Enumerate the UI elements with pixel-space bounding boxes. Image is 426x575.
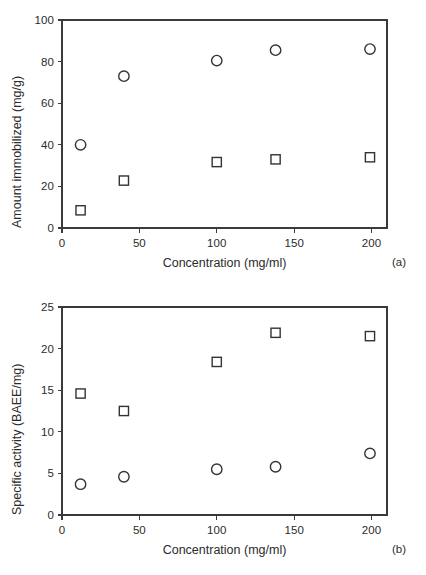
x-tick-label: 200 bbox=[362, 237, 382, 249]
data-point-circle bbox=[75, 479, 85, 489]
x-tick-label: 100 bbox=[207, 524, 227, 536]
data-point-square bbox=[271, 328, 280, 337]
data-point-circle bbox=[270, 462, 280, 472]
x-tick-label: 150 bbox=[284, 524, 304, 536]
x-tick-label: 50 bbox=[133, 237, 146, 249]
x-tick-label: 200 bbox=[362, 524, 382, 536]
data-point-square bbox=[119, 176, 128, 185]
y-axis-title: Specific activity (BAEE/mg) bbox=[10, 364, 24, 515]
x-tick-label: 100 bbox=[207, 237, 227, 249]
x-axis-title: Concentration (mg/ml) bbox=[163, 543, 287, 557]
data-point-circle bbox=[119, 472, 129, 482]
data-point-circle bbox=[270, 45, 280, 55]
x-tick-label: 150 bbox=[284, 237, 304, 249]
data-point-square bbox=[365, 153, 374, 162]
data-point-square bbox=[271, 155, 280, 164]
data-point-circle bbox=[212, 55, 222, 65]
y-tick-label: 20 bbox=[16, 343, 54, 355]
y-tick-label: 80 bbox=[16, 56, 54, 68]
data-point-circle bbox=[212, 464, 222, 474]
data-point-square bbox=[212, 357, 221, 366]
x-axis-title: Concentration (mg/ml) bbox=[163, 256, 287, 270]
data-point-square bbox=[76, 206, 85, 215]
y-axis-title: Amount immobilized (mg/g) bbox=[10, 76, 24, 228]
x-tick-label: 50 bbox=[133, 524, 146, 536]
x-tick-label: 0 bbox=[59, 524, 66, 536]
data-point-square bbox=[212, 157, 221, 166]
data-point-square bbox=[119, 406, 128, 415]
chart-panel-b: 0510152025050100150200Concentration (mg/… bbox=[0, 287, 426, 575]
data-point-circle bbox=[75, 140, 85, 150]
panel-tag-a: (a) bbox=[392, 256, 406, 268]
panel-tag-b: (b) bbox=[392, 543, 406, 555]
plot-frame bbox=[62, 307, 387, 515]
data-point-circle bbox=[365, 44, 375, 54]
x-tick-label: 0 bbox=[59, 237, 66, 249]
data-point-square bbox=[365, 332, 374, 341]
plot-frame bbox=[62, 20, 387, 228]
data-point-circle bbox=[119, 71, 129, 81]
chart-panel-a: 020406080100050100150200Concentration (m… bbox=[0, 0, 426, 285]
data-point-circle bbox=[365, 448, 375, 458]
y-tick-label: 25 bbox=[16, 301, 54, 313]
figure-container: 020406080100050100150200Concentration (m… bbox=[0, 0, 426, 575]
y-tick-label: 100 bbox=[16, 14, 54, 26]
data-point-square bbox=[76, 389, 85, 398]
